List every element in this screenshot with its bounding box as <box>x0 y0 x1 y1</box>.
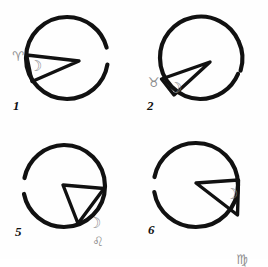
zodiac-aries-icon: ♈ <box>12 50 24 63</box>
panel-5-drawing <box>0 130 134 259</box>
figure-panel-2: ♉ ☽ 2 <box>134 0 268 129</box>
crescent-moon-icon: ☽ <box>225 187 238 202</box>
crescent-moon-icon: ☽ <box>88 216 101 231</box>
figure-panel-5: ♌ ☽ 5 <box>0 130 134 259</box>
figure-label-1: 1 <box>13 99 20 112</box>
zodiac-taurus-icon: ♉ <box>148 76 160 89</box>
zodiac-leo-icon: ♌ <box>92 235 104 248</box>
figure-label-2: 2 <box>147 99 154 112</box>
figure-panel-6: ♍ ☽ 6 <box>134 130 268 259</box>
crescent-moon-icon: ☽ <box>29 59 42 74</box>
panel-2-drawing <box>134 0 268 129</box>
zodiac-virgo-icon: ♍ <box>236 253 248 266</box>
figure-label-6: 6 <box>148 223 155 236</box>
figure-label-5: 5 <box>15 225 22 238</box>
panel-6-drawing <box>134 130 268 259</box>
panel-1-drawing <box>0 0 134 129</box>
figure-panel-1: ♈ ☽ 1 <box>0 0 134 129</box>
crescent-moon-icon: ☽ <box>169 81 182 96</box>
